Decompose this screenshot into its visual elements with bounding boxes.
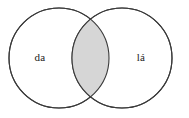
venn-diagram-figure: da lá <box>0 0 189 118</box>
venn-label-left: da <box>35 51 46 63</box>
venn-diagram-canvas: da lá <box>0 0 189 118</box>
venn-label-right: lá <box>137 51 145 63</box>
